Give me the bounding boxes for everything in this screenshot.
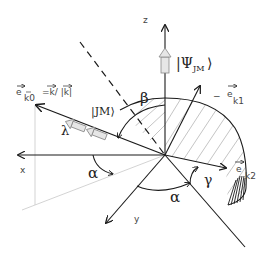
- y-axis: [106, 155, 165, 223]
- svg-text:−: −: [213, 91, 221, 101]
- svg-text:e: e: [236, 164, 242, 174]
- x-axis-label: x: [20, 165, 26, 175]
- svg-text:|Ψ: |Ψ: [176, 55, 193, 72]
- svg-text:=k/ |k|: =k/ |k|: [42, 87, 72, 97]
- helicity-frame-diagram: z x y |Ψ JM ⟩ |JM⟩ β α α γ λ e k0 =k/ |k…: [0, 0, 270, 259]
- ek1-vector: [165, 86, 200, 155]
- z-axis-label: z: [143, 15, 148, 25]
- y-axis-label: y: [134, 214, 140, 224]
- svg-text:e: e: [16, 87, 22, 97]
- svg-text:JM: JM: [192, 64, 204, 73]
- alpha-bottom-arc: [137, 183, 190, 190]
- psi-label: |Ψ JM ⟩: [176, 55, 212, 73]
- jm-label: |JM⟩: [91, 105, 115, 119]
- psi-arrow: [159, 48, 171, 73]
- ek0-label: e k0 =k/ |k|: [16, 86, 72, 103]
- gamma-label: γ: [204, 172, 212, 188]
- hatched-sphere-region: [120, 90, 266, 210]
- svg-text:⟩: ⟩: [207, 55, 212, 71]
- alpha-left-label: α: [88, 164, 98, 182]
- svg-text:k1: k1: [233, 96, 244, 106]
- alpha-bottom-label: α: [170, 188, 180, 206]
- gamma-arc: [190, 167, 198, 184]
- svg-text:k0: k0: [24, 93, 35, 103]
- lambda-arrows: [64, 117, 108, 142]
- beta-label: β: [140, 89, 149, 107]
- svg-text:k2: k2: [245, 171, 256, 181]
- ek1-label: − e k1: [213, 86, 244, 106]
- lambda-label: λ: [61, 123, 69, 138]
